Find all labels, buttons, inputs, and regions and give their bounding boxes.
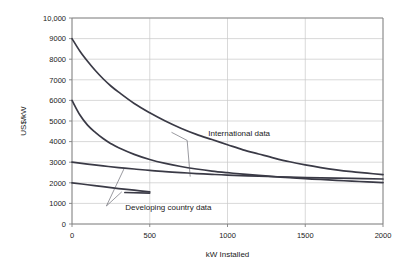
x-tick-label: 1500 [297, 231, 314, 240]
y-tick-label: 7000 [49, 76, 66, 85]
y-tick-label: 1000 [49, 199, 66, 208]
chart-figure: 010002000300040005000600070008000900010,… [0, 0, 415, 272]
annotation-international-data: International data [208, 129, 270, 138]
y-tick-label: 3000 [49, 158, 66, 167]
y-tick-label: 2000 [49, 179, 66, 188]
series-line [125, 192, 150, 193]
y-tick-label: 9000 [49, 34, 66, 43]
y-tick-label: 5000 [49, 117, 66, 126]
x-tick-label: 500 [143, 231, 156, 240]
y-axis-title: US$/kW [19, 106, 28, 136]
y-tick-label: 6000 [49, 96, 66, 105]
chart-canvas: 010002000300040005000600070008000900010,… [0, 0, 415, 272]
y-tick-label: 8000 [49, 55, 66, 64]
x-axis-title: kW Installed [206, 250, 250, 259]
y-tick-label: 0 [62, 220, 66, 229]
x-tick-label: 2000 [375, 231, 392, 240]
y-tick-label: 4000 [49, 137, 66, 146]
x-tick-label: 1000 [219, 231, 236, 240]
x-tick-label: 0 [70, 231, 74, 240]
annotation-developing-country-data: Developing country data [125, 203, 212, 212]
y-tick-label: 10,000 [43, 14, 66, 23]
